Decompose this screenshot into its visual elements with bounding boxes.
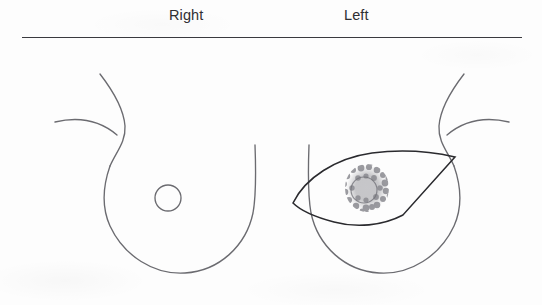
diagram-page: Right Left — [0, 0, 542, 305]
left-axilla-arc — [439, 74, 464, 166]
right-arm-line — [55, 119, 117, 135]
left-arm-line — [447, 119, 509, 135]
left-breast-contour — [308, 145, 460, 273]
right-breast-group — [55, 74, 256, 273]
right-axilla-arc — [100, 74, 125, 166]
right-nipple-circle — [155, 185, 181, 211]
left-breast-tumor-group — [340, 161, 392, 216]
right-breast-contour — [104, 145, 256, 273]
breast-diagram-figure — [0, 0, 542, 305]
left-breast-group — [308, 74, 509, 273]
